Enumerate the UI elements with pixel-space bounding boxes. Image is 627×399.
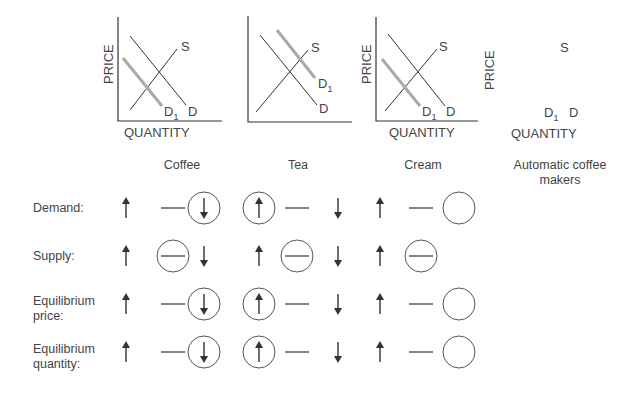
coffee-equilibrium-quantity-none-option[interactable] (156, 335, 190, 369)
arrow-down-icon (321, 335, 355, 369)
arrow-down-icon (187, 287, 221, 321)
coffee-demand-down-option[interactable] (187, 191, 221, 225)
cream-supply-none-option[interactable] (404, 239, 438, 273)
row-label-supply: Supply: (33, 249, 75, 264)
coffee-demand-none-option[interactable] (156, 191, 190, 225)
arrow-up-icon (363, 335, 397, 369)
row-label-equilibrium-quantity: Equilibrium quantity: (33, 342, 95, 372)
arrow-up-icon (363, 239, 397, 273)
coffee-demand-curve (130, 36, 186, 105)
empty-circle-icon (442, 335, 476, 369)
tea-equilibrium-quantity-none-option[interactable] (280, 335, 314, 369)
dash-icon (280, 287, 314, 321)
row-label-equilibrium-price-line2: price: (33, 309, 95, 324)
dash-icon (280, 191, 314, 225)
tea-new-demand-subscript: 1 (327, 84, 332, 94)
cream-demand-curve (388, 34, 445, 106)
coffee-equilibrium-price-up-option[interactable] (109, 287, 143, 321)
coffee-equilibrium-quantity-down-option[interactable] (187, 335, 221, 369)
arrow-down-icon (321, 287, 355, 321)
tea-equilibrium-quantity-down-option[interactable] (321, 335, 355, 369)
tea-demand-down-option[interactable] (321, 191, 355, 225)
tea-demand-up-option[interactable] (242, 191, 276, 225)
arrow-down-icon (321, 191, 355, 225)
column-header-cream: Cream (404, 158, 442, 172)
coffee-supply-curve (130, 49, 177, 110)
cream-equilibrium-quantity-down-option[interactable] (442, 335, 476, 369)
cream-equilibrium-quantity-none-option[interactable] (404, 335, 438, 369)
coffee-equilibrium-price-down-option[interactable] (187, 287, 221, 321)
coffee-demand-up-option[interactable] (109, 191, 143, 225)
tea-new-demand-label: D1 (318, 76, 332, 94)
tea-axes (248, 16, 352, 122)
tea-equilibrium-price-up-option[interactable] (242, 287, 276, 321)
coffee-equilibrium-quantity-up-option[interactable] (109, 335, 143, 369)
tea-supply-none-option[interactable] (280, 239, 314, 273)
cream-new-demand-letter: D (422, 104, 431, 119)
dash-icon (404, 335, 438, 369)
tea-demand-label: D (319, 101, 328, 116)
automatic-price-axis-label: PRICE (482, 50, 497, 90)
arrow-down-icon (187, 239, 221, 273)
row-label-equilibrium-price: Equilibrium price: (33, 294, 95, 324)
tea-supply-up-option[interactable] (242, 239, 276, 273)
tea-demand-none-option[interactable] (280, 191, 314, 225)
arrow-down-icon (187, 191, 221, 225)
empty-circle-icon (442, 191, 476, 225)
arrow-up-icon (242, 287, 276, 321)
cream-supply-up-option[interactable] (363, 239, 397, 273)
arrow-down-icon (321, 239, 355, 273)
arrow-up-icon (109, 287, 143, 321)
empty-circle-icon (442, 287, 476, 321)
dash-icon (280, 335, 314, 369)
row-label-equilibrium-price-line1: Equilibrium (33, 294, 95, 309)
arrow-down-icon (187, 335, 221, 369)
cream-demand-label: D (446, 104, 455, 119)
tea-new-demand-letter: D (318, 76, 327, 91)
coffee-new-demand-curve (123, 58, 162, 106)
tea-graph (248, 16, 352, 122)
dash-icon (156, 335, 190, 369)
dash-icon (280, 239, 314, 273)
column-header-tea: Tea (288, 158, 308, 172)
tea-equilibrium-quantity-up-option[interactable] (242, 335, 276, 369)
cream-supply-curve (385, 49, 437, 111)
coffee-new-demand-subscript: 1 (173, 112, 178, 122)
automatic-supply-label: S (560, 40, 569, 55)
dash-icon (404, 191, 438, 225)
cream-supply-label: S (439, 39, 448, 54)
coffee-supply-up-option[interactable] (109, 239, 143, 273)
coffee-new-demand-letter: D (164, 104, 173, 119)
cream-equilibrium-price-up-option[interactable] (363, 287, 397, 321)
tea-supply-down-option[interactable] (321, 239, 355, 273)
arrow-up-icon (363, 191, 397, 225)
dash-icon (156, 191, 190, 225)
row-label-demand: Demand: (33, 201, 84, 216)
cream-new-demand-label: D1 (422, 104, 436, 122)
automatic-new-demand-subscript: 1 (553, 113, 558, 123)
dash-icon (404, 239, 438, 273)
tea-equilibrium-price-none-option[interactable] (280, 287, 314, 321)
coffee-supply-down-option[interactable] (187, 239, 221, 273)
row-label-equilibrium-quantity-line1: Equilibrium (33, 342, 95, 357)
tea-equilibrium-price-down-option[interactable] (321, 287, 355, 321)
tea-supply-label: S (311, 40, 320, 55)
dash-icon (156, 287, 190, 321)
cream-equilibrium-quantity-up-option[interactable] (363, 335, 397, 369)
cream-demand-none-option[interactable] (404, 191, 438, 225)
coffee-equilibrium-price-none-option[interactable] (156, 287, 190, 321)
automatic-new-demand-letter: D (544, 105, 553, 120)
cream-equilibrium-price-none-option[interactable] (404, 287, 438, 321)
cream-demand-up-option[interactable] (363, 191, 397, 225)
automatic-new-demand-label: D1 (544, 105, 558, 123)
cream-quantity-axis-label: QUANTITY (389, 125, 455, 140)
cream-equilibrium-price-down-option[interactable] (442, 287, 476, 321)
coffee-supply-none-option[interactable] (156, 239, 190, 273)
coffee-quantity-axis-label: QUANTITY (124, 125, 190, 140)
column-header-automatic-coffee-makers: Automatic coffee makers (505, 158, 615, 188)
dash-icon (156, 239, 190, 273)
cream-demand-down-option[interactable] (442, 191, 476, 225)
column-header-coffee: Coffee (164, 158, 201, 172)
cream-price-axis-label: PRICE (359, 44, 374, 84)
coffee-price-axis-label: PRICE (101, 44, 116, 84)
